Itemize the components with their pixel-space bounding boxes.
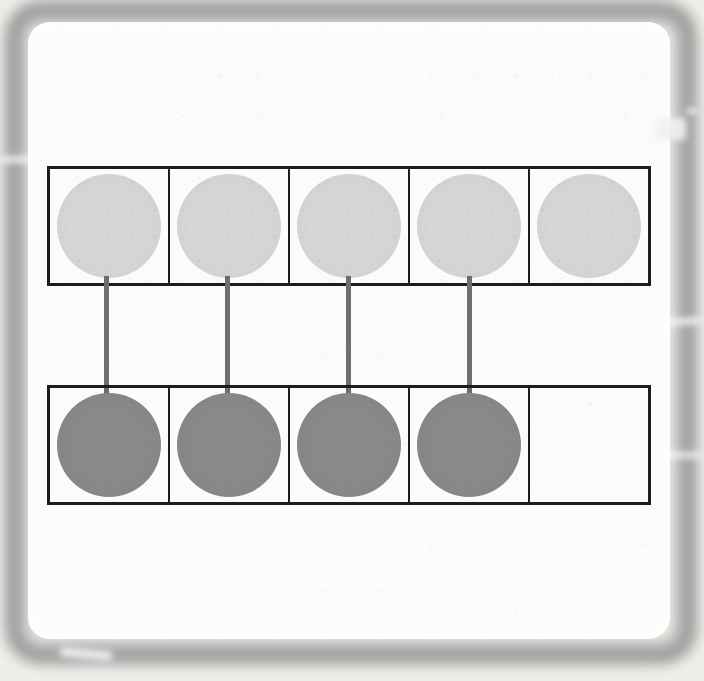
connector-line-1	[104, 284, 109, 388]
top-cell-1[interactable]	[50, 169, 170, 283]
bottom-cell-1[interactable]	[50, 388, 170, 502]
connector-stub-top-2	[225, 276, 230, 285]
bottom-cell-2[interactable]	[170, 388, 290, 502]
photo-stage	[0, 0, 704, 681]
bottom-circle-1	[57, 393, 161, 497]
top-circle-4	[417, 174, 521, 278]
top-cell-3[interactable]	[290, 169, 410, 283]
top-cell-2[interactable]	[170, 169, 290, 283]
bottom-cell-3[interactable]	[290, 388, 410, 502]
connector-stub-top-1	[104, 276, 109, 285]
connector-line-4	[467, 284, 472, 388]
connector-line-2	[225, 284, 230, 388]
connector-stub-top-4	[467, 276, 472, 285]
bottom-row-table	[47, 385, 651, 505]
top-cell-5[interactable]	[530, 169, 648, 283]
connector-line-3	[346, 284, 351, 388]
bottom-circle-2	[177, 393, 281, 497]
top-circle-2	[177, 174, 281, 278]
top-circle-1	[57, 174, 161, 278]
bottom-cell-4[interactable]	[410, 388, 530, 502]
top-cell-4[interactable]	[410, 169, 530, 283]
top-circle-5	[537, 174, 641, 278]
matching-diagram	[47, 166, 651, 503]
bottom-circle-4	[417, 393, 521, 497]
top-circle-3	[297, 174, 401, 278]
connector-stub-top-3	[346, 276, 351, 285]
bottom-circle-3	[297, 393, 401, 497]
top-row-table	[47, 166, 651, 286]
bottom-cell-5-empty[interactable]	[530, 388, 648, 502]
bottom-circle-5-absent	[537, 393, 641, 497]
